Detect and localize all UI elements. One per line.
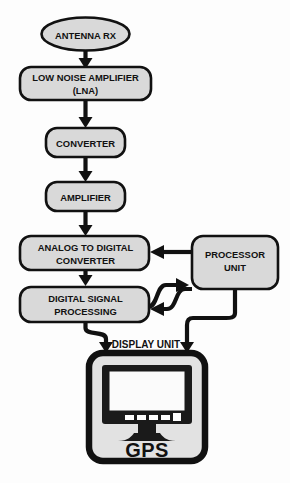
node-processor-unit[interactable]: PROCESSOR UNIT	[192, 236, 278, 289]
node-low-noise-amplifier[interactable]: LOW NOISE AMPLIFIER (LNA)	[20, 67, 151, 100]
edge-processor-to-adc	[150, 245, 192, 259]
lna-label-line2: (LNA)	[73, 85, 99, 96]
edge-dsp-to-processor	[148, 278, 189, 307]
display-unit-caption: DISPLAY UNIT	[112, 339, 180, 350]
dsp-label-line2: PROCESSING	[54, 306, 117, 317]
edge-lna-to-converter	[79, 100, 93, 128]
block-diagram-canvas: ANTENNA RX LOW NOISE AMPLIFIER (LNA) CON…	[0, 0, 290, 483]
display-screen-glass	[109, 371, 185, 411]
processor-unit-label-line1: PROCESSOR	[205, 249, 265, 260]
node-converter[interactable]: CONVERTER	[46, 128, 125, 157]
display-button-3[interactable]	[149, 415, 158, 420]
display-power-indicator[interactable]	[173, 413, 181, 421]
node-digital-signal-processing[interactable]: DIGITAL SIGNAL PROCESSING	[20, 287, 149, 322]
edge-adc-to-dsp	[79, 270, 93, 286]
processor-unit-label-line2: UNIT	[224, 262, 246, 273]
adc-label-line2: CONVERTER	[56, 255, 115, 266]
diagram-svg: ANTENNA RX LOW NOISE AMPLIFIER (LNA) CON…	[0, 0, 290, 483]
converter-label: CONVERTER	[56, 138, 115, 149]
adc-label-line1: ANALOG TO DIGITAL	[38, 242, 134, 253]
dsp-label-line1: DIGITAL SIGNAL	[48, 293, 123, 304]
node-display-unit[interactable]: GPS	[89, 353, 205, 461]
node-antenna-rx[interactable]: ANTENNA RX	[42, 18, 130, 51]
node-analog-to-digital-converter[interactable]: ANALOG TO DIGITAL CONVERTER	[20, 236, 149, 270]
display-gps-label: GPS	[125, 439, 169, 461]
lna-label-line1: LOW NOISE AMPLIFIER	[32, 72, 139, 83]
display-stand-neck	[138, 424, 156, 433]
edge-converter-to-amplifier	[79, 157, 93, 182]
display-button-4[interactable]	[161, 415, 170, 420]
antenna-rx-label: ANTENNA RX	[55, 30, 117, 41]
edge-amplifier-to-adc	[79, 210, 93, 236]
amplifier-label: AMPLIFIER	[60, 192, 111, 203]
edge-processor-to-display	[180, 289, 235, 353]
display-button-1[interactable]	[125, 415, 134, 420]
display-button-2[interactable]	[137, 415, 146, 420]
edge-dsp-to-display	[86, 322, 114, 353]
node-amplifier[interactable]: AMPLIFIER	[46, 182, 125, 211]
